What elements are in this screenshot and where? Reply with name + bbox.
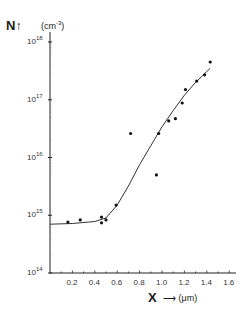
y-unit-close: ) (61, 21, 64, 31)
fit-line-path (50, 68, 210, 224)
x-tick-label: 1.6 (223, 278, 234, 287)
up-arrow-icon: ↑ (15, 19, 21, 33)
x-axis-unit: ⟶ (μm) (163, 293, 197, 303)
data-point (155, 173, 158, 176)
data-points (66, 60, 211, 224)
y-tick-label: 1015 (27, 208, 43, 219)
data-point (181, 101, 184, 104)
x-axis-label: X (148, 290, 157, 305)
x-tick-label: 1.2 (178, 278, 189, 287)
x-tick-label: 0.8 (134, 278, 145, 287)
data-point (100, 216, 103, 219)
data-point (157, 132, 160, 135)
x-tick-label: 0.6 (111, 278, 122, 287)
data-point (174, 117, 177, 120)
data-point (100, 221, 103, 224)
data-point (167, 119, 170, 122)
data-point (79, 218, 82, 221)
y-unit-base: (cm (41, 21, 56, 31)
data-point (203, 73, 206, 76)
x-tick-label: 0.4 (89, 278, 100, 287)
data-point (115, 204, 118, 207)
right-arrow-icon: ⟶ (163, 293, 176, 303)
x-tick-label: 0.2 (66, 278, 77, 287)
x-axis-symbol: X (148, 290, 157, 305)
y-axis-label: N↑ (6, 18, 21, 33)
data-point (104, 218, 107, 221)
x-unit: (μm) (179, 293, 198, 303)
y-tick-label: 1014 (27, 266, 43, 277)
y-axis-symbol: N (6, 18, 15, 33)
y-tick-label: 1017 (27, 93, 43, 104)
x-tick-label: 1.0 (156, 278, 167, 287)
y-tick-label: 1018 (27, 35, 43, 46)
y-axis-unit: (cm-3) (41, 20, 64, 31)
fit-curve (50, 68, 210, 224)
data-point (66, 221, 69, 224)
data-point (195, 80, 198, 83)
data-point (184, 88, 187, 91)
data-point (209, 60, 212, 63)
y-tick-label: 1016 (27, 151, 43, 162)
data-point (129, 132, 132, 135)
axes (48, 32, 236, 273)
x-tick-label: 1.4 (201, 278, 212, 287)
